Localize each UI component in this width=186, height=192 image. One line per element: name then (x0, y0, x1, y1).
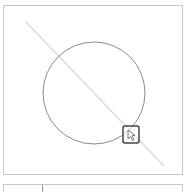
bottom-bar (3, 184, 183, 192)
canvas-shapes (4, 6, 184, 176)
resize-handle[interactable] (123, 126, 139, 143)
drawing-canvas[interactable] (3, 5, 183, 175)
bottom-divider (42, 185, 43, 192)
